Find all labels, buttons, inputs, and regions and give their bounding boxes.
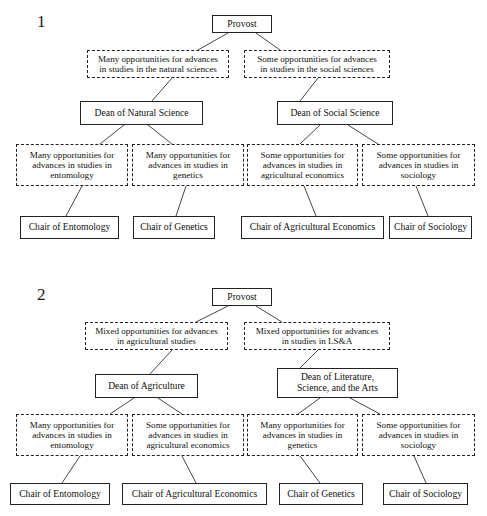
node-dean-agriculture: Dean of Agriculture [95, 374, 198, 398]
node-opportunity-genetics: Many opportunities for advances in studi… [132, 144, 244, 186]
connector-line [110, 398, 134, 414]
node-chair-sociology: Chair of Sociology [389, 216, 472, 239]
connector-line [304, 186, 316, 216]
node-opportunity-agricultural-economics: Some opportunities for advances in studi… [247, 144, 358, 186]
connector-line [148, 125, 172, 144]
connector-line [158, 398, 182, 414]
node-opportunity-lsa: Mixed opportunities for advances in stud… [244, 322, 390, 350]
node-chair-genetics: Chair of Genetics [133, 216, 215, 239]
connector-line [350, 398, 380, 414]
connector-line [62, 456, 80, 483]
connector-line [300, 456, 320, 483]
connector-line [198, 33, 228, 50]
connector-line [196, 306, 228, 322]
connector-line [300, 350, 318, 368]
connector-line [256, 306, 282, 322]
node-opportunity-agricultural-studies: Mixed opportunities for advances in agri… [85, 322, 228, 350]
connector-line [100, 125, 124, 144]
connector-line [414, 456, 426, 483]
node-chair-entomology: Chair of Entomology [10, 483, 110, 505]
diagram-canvas: ProvostMany opportunities for advances i… [0, 0, 487, 516]
figure-number: 1 [37, 12, 46, 32]
connector-line [256, 33, 280, 50]
figure-number: 2 [37, 285, 46, 305]
connector-line [176, 186, 186, 216]
connector-line [150, 350, 172, 374]
connector-line [348, 125, 378, 144]
node-chair-agricultural-economics: Chair of Agricultural Economics [122, 483, 267, 505]
node-opportunity-sociology: Some opportunities for advances in studi… [362, 414, 475, 456]
connector-line [298, 398, 320, 414]
node-opportunity-entomology: Many opportunities for advances in studi… [16, 144, 128, 186]
node-chair-sociology: Chair of Sociology [383, 483, 468, 505]
node-dean-literature-science-arts: Dean of Literature, Science, and the Art… [277, 368, 398, 398]
node-opportunity-agricultural-economics: Some opportunities for advances in studi… [132, 414, 244, 456]
connector-line [300, 78, 318, 101]
connector-line [152, 78, 172, 101]
node-dean-natural-science: Dean of Natural Science [80, 101, 203, 125]
node-opportunity-natural-sciences: Many opportunities for advances in studi… [87, 50, 229, 78]
connector-line [66, 186, 82, 216]
node-chair-agricultural-economics: Chair of Agricultural Economics [241, 216, 384, 239]
node-opportunity-social-sciences: Some opportunities for advances in studi… [244, 50, 390, 78]
node-opportunity-sociology: Some opportunities for advances in studi… [362, 144, 475, 186]
node-opportunity-entomology: Many opportunities for advances in studi… [16, 414, 128, 456]
connector-line [182, 456, 196, 483]
node-dean-social-science: Dean of Social Science [277, 101, 393, 125]
node-provost: Provost [212, 288, 272, 306]
node-opportunity-genetics: Many opportunities for advances in studi… [247, 414, 358, 456]
node-provost: Provost [212, 15, 272, 33]
connector-line [416, 186, 428, 216]
node-chair-genetics: Chair of Genetics [279, 483, 363, 505]
connector-line [300, 125, 320, 144]
node-chair-entomology: Chair of Entomology [20, 216, 119, 239]
